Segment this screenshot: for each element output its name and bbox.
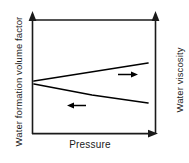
annotation-arrow-left [67, 103, 86, 109]
series-line-water-viscosity [34, 63, 148, 81]
up-arrow-icon-right [152, 11, 160, 21]
up-arrow-icon-left [29, 11, 37, 21]
annotation-arrow-right-head [131, 72, 138, 78]
annotation-arrow-right [118, 72, 138, 78]
series-line-water-fvf [34, 84, 148, 103]
chart-figure: Water formation volume factor Water visc… [0, 0, 189, 163]
right-arrow-icon-bottom [148, 130, 158, 138]
y-axis-label-left: Water formation volume factor [14, 0, 28, 163]
x-axis-label: Pressure [28, 140, 152, 150]
y-axis-label-right: Water viscosity [175, 20, 189, 140]
annotation-arrow-left-head [67, 103, 74, 109]
